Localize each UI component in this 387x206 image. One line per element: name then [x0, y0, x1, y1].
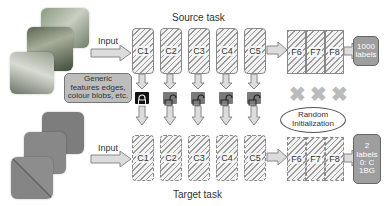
target-task-title: Target task [173, 189, 222, 200]
target-input-arrow [90, 150, 132, 168]
target-conv-c2: C2 [160, 135, 182, 181]
unlock-icon-c5 [247, 92, 261, 104]
target-conv-c1: C1 [132, 135, 154, 181]
source-task-title: Source task [172, 12, 225, 23]
unlock-icon-c2 [163, 92, 177, 104]
x-icon: ✖ [310, 84, 327, 104]
source-conv-c5: C5 [244, 28, 266, 74]
x-icon: ✖ [289, 84, 306, 104]
generic-features-callout: Generic features edges, colour blobs, et… [64, 73, 132, 103]
source-fc-f6: F6 [287, 30, 306, 74]
target-fc-f7: F7 [306, 137, 325, 181]
lock-icon-c1-locked [135, 92, 149, 104]
target-conv-c4: C4 [216, 135, 238, 181]
x-icon: ✖ [331, 84, 348, 104]
target-fc-f6: F6 [287, 137, 306, 181]
source-conv-c4: C4 [216, 28, 238, 74]
random-initialization-label: Random Initialization [280, 107, 346, 133]
source-input-arrow [90, 44, 132, 62]
target-conv-c5: C5 [244, 135, 266, 181]
source-fc-f7: F7 [306, 30, 325, 74]
target-conv-c3: C3 [188, 135, 210, 181]
source-conv-c2: C2 [160, 28, 182, 74]
source-conv-c3: C3 [188, 28, 210, 74]
source-output-1000-labels: 1000 labels [353, 36, 379, 66]
source-conv-c1: C1 [132, 28, 154, 74]
discarded-layers-marks: ✖ ✖ ✖ [289, 84, 348, 104]
source-image-3 [10, 52, 54, 94]
target-c5-to-fc-arrow [266, 148, 288, 166]
source-c5-to-fc-arrow [266, 41, 288, 59]
unlock-icon-c3 [191, 92, 205, 104]
target-image-3 [11, 157, 53, 199]
target-output-2-labels: 2 labels 0: C 1BG [353, 134, 381, 184]
target-fc-f8: F8 [325, 137, 344, 181]
source-fc-f8: F8 [325, 30, 344, 74]
unlock-icon-c4 [219, 92, 233, 104]
